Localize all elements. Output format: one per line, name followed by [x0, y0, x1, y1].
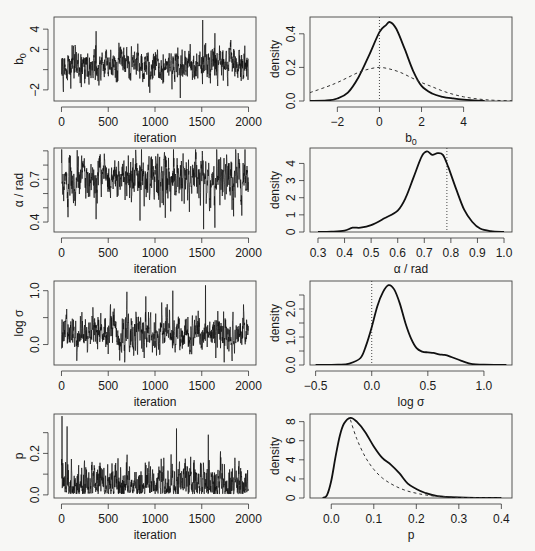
mcmc-trace-line — [62, 416, 249, 494]
x-axis: 0.30.40.50.60.70.80.91.0α / rad — [310, 238, 513, 276]
x-tick-label: 1500 — [188, 379, 215, 393]
trace_p-panel: 0500100015002000iteration0.00.2p — [12, 414, 262, 542]
x-tick-label: 0 — [58, 246, 65, 260]
x-tick-label: 1000 — [142, 379, 169, 393]
x-tick-label: 2 — [418, 115, 425, 129]
y-tick-label: 0.0 — [28, 336, 42, 353]
x-tick-label: 0 — [58, 512, 65, 526]
y-tick-label: 2.0 — [284, 300, 298, 317]
trace_b0-panel: 0500100015002000iteration−224b0 — [12, 17, 262, 145]
y-axis-title: p — [12, 452, 26, 459]
y-tick-label: 0.2 — [284, 59, 298, 76]
y-tick-label: 3 — [284, 177, 298, 184]
x-tick-label: 1500 — [188, 115, 215, 129]
y-tick-label: 1 — [284, 211, 298, 218]
x-axis-title: iteration — [134, 395, 177, 409]
y-axis: 0.00.2p — [12, 433, 48, 504]
x-tick-label: 0.0 — [363, 379, 380, 393]
mcmc-trace-line — [62, 149, 249, 229]
x-tick-label: 0.4 — [336, 246, 353, 260]
x-tick-label: 0 — [376, 115, 383, 129]
x-tick-label: 0.0 — [323, 512, 340, 526]
y-tick-label: 0.0 — [284, 356, 298, 373]
x-tick-label: 0.3 — [310, 246, 327, 260]
y-tick-label: −2 — [28, 83, 42, 97]
x-axis-title: α / rad — [394, 262, 428, 276]
posterior-density-curve — [310, 22, 485, 101]
posterior-density-curve — [323, 418, 502, 498]
posterior-density-curve — [316, 285, 507, 365]
y-axis-title: b0 — [12, 53, 28, 65]
x-tick-label: −0.5 — [304, 379, 328, 393]
mcmc-diagnostics-figure: 0500100015002000iteration−224b0−2024b00.… — [0, 0, 535, 551]
x-tick-label: 0.5 — [363, 246, 380, 260]
y-axis-title: density — [268, 437, 282, 475]
x-tick-label: 1500 — [188, 512, 215, 526]
x-tick-label: 0.7 — [416, 246, 433, 260]
x-tick-label: 2000 — [235, 115, 262, 129]
y-tick-label: 4 — [284, 456, 298, 463]
x-tick-label: 0 — [58, 379, 65, 393]
x-tick-label: 500 — [98, 246, 118, 260]
y-axis: 0.01.0log σ — [12, 282, 48, 353]
x-tick-label: 1000 — [142, 512, 169, 526]
x-axis: 0.00.10.20.30.4p — [323, 504, 510, 542]
y-tick-label: 0.7 — [28, 171, 42, 188]
x-tick-label: 2000 — [235, 379, 262, 393]
x-axis-title: b0 — [405, 131, 417, 147]
y-axis-title: density — [268, 40, 282, 78]
x-tick-label: 2000 — [235, 512, 262, 526]
trace_logsigma-panel: 0500100015002000iteration0.01.0log σ — [12, 281, 262, 409]
x-tick-label: 1.0 — [476, 379, 493, 393]
x-tick-label: 0.5 — [419, 379, 436, 393]
x-tick-label: 500 — [98, 115, 118, 129]
x-tick-label: 0.2 — [408, 512, 425, 526]
density_logsigma-panel: −0.50.00.51.0log σ0.01.02.0density — [268, 281, 512, 409]
mcmc-trace-line — [62, 285, 249, 362]
y-axis: 01234density — [268, 160, 304, 236]
x-tick-label: 0.3 — [450, 512, 467, 526]
y-tick-label: 1.0 — [284, 328, 298, 345]
x-tick-label: 0.8 — [443, 246, 460, 260]
y-tick-label: 2 — [284, 475, 298, 482]
y-tick-label: 4 — [28, 25, 42, 32]
y-tick-label: 0.4 — [28, 213, 42, 230]
density_p-panel: 0.00.10.20.30.4p02468density — [268, 414, 512, 542]
plot-frame — [310, 148, 512, 232]
x-tick-label: 1.0 — [496, 246, 513, 260]
x-tick-label: 4 — [460, 115, 467, 129]
y-axis: 0.40.7α / rad — [12, 151, 48, 231]
x-tick-label: 1000 — [142, 115, 169, 129]
x-axis: 0500100015002000iteration — [58, 504, 262, 542]
y-axis: 0.01.02.0density — [268, 295, 304, 373]
trace_alpha-panel: 0500100015002000iteration0.40.7α / rad — [12, 148, 262, 276]
y-tick-label: 8 — [284, 418, 298, 425]
y-tick-label: 0.4 — [284, 25, 298, 42]
x-axis-title: iteration — [134, 131, 177, 145]
x-tick-label: 0.9 — [469, 246, 486, 260]
x-axis-title: iteration — [134, 528, 177, 542]
x-axis-title: iteration — [134, 262, 177, 276]
density_alpha-panel: 0.30.40.50.60.70.80.91.0α / rad01234dens… — [268, 148, 513, 276]
x-axis-title: p — [408, 528, 415, 542]
x-tick-label: 1500 — [188, 246, 215, 260]
y-axis-title: density — [268, 304, 282, 342]
x-axis-title: log σ — [398, 395, 425, 409]
y-axis: −224b0 — [12, 25, 48, 96]
y-axis: 0.00.20.4density — [268, 25, 304, 109]
y-tick-label: 0.2 — [28, 445, 42, 462]
x-axis: 0500100015002000iteration — [58, 107, 262, 145]
x-tick-label: 2000 — [235, 246, 262, 260]
y-tick-label: 1.0 — [28, 282, 42, 299]
density_b0-panel: −2024b00.00.20.4density — [268, 17, 512, 147]
x-axis: −0.50.00.51.0log σ — [304, 371, 493, 409]
y-axis-title: α / rad — [12, 173, 26, 207]
x-tick-label: 0.6 — [389, 246, 406, 260]
y-axis-title: density — [268, 171, 282, 209]
x-tick-label: 1000 — [142, 246, 169, 260]
y-axis: 02468density — [268, 418, 304, 501]
y-tick-label: 0 — [284, 228, 298, 235]
mcmc-trace-line — [62, 20, 249, 98]
plot-frame — [310, 17, 512, 101]
x-tick-label: 500 — [98, 379, 118, 393]
